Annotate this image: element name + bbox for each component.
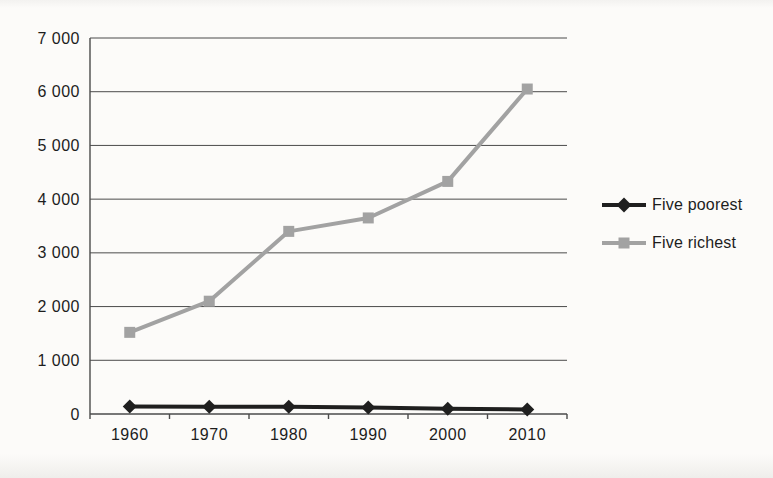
x-tick-label: 1990: [349, 426, 387, 443]
y-tick-label: 7 000: [37, 30, 80, 47]
legend-label-five-richest: Five richest: [652, 235, 736, 251]
x-tick-label: 2010: [508, 426, 546, 443]
x-tick-label: 1980: [270, 426, 308, 443]
series-line-five-poorest: [130, 406, 528, 409]
diamond-marker-icon: [617, 197, 632, 212]
y-tick-label: 5 000: [37, 137, 80, 154]
y-tick-label: 1 000: [37, 352, 80, 369]
y-tick-label: 3 000: [37, 244, 80, 261]
data-point-diamond: [123, 399, 137, 413]
chart-legend: Five poorest Five richest: [601, 194, 742, 253]
data-point-square: [124, 327, 135, 338]
data-point-diamond: [361, 401, 375, 415]
series-line-five-richest: [130, 89, 528, 332]
scanned-chart-page: 01 0002 0003 0004 0005 0006 0007 0001960…: [0, 0, 773, 478]
x-tick-label: 1960: [111, 426, 149, 443]
data-point-square: [283, 226, 294, 237]
y-tick-label: 4 000: [37, 191, 80, 208]
square-marker-icon: [619, 237, 630, 248]
y-tick-label: 0: [71, 406, 80, 423]
five-poorest-legend-marker: [601, 197, 647, 213]
data-point-square: [522, 84, 533, 95]
legend-item-five-poorest: Five poorest: [601, 194, 742, 215]
data-point-square: [204, 296, 215, 307]
legend-item-five-richest: Five richest: [601, 232, 742, 253]
y-tick-label: 6 000: [37, 83, 80, 100]
y-tick-label: 2 000: [37, 298, 80, 315]
x-tick-label: 1970: [190, 426, 228, 443]
x-tick-label: 2000: [429, 426, 467, 443]
data-point-diamond: [202, 400, 216, 414]
legend-label-five-poorest: Five poorest: [652, 197, 742, 213]
data-point-diamond: [282, 400, 296, 414]
data-point-square: [363, 212, 374, 223]
data-point-square: [442, 176, 453, 187]
five-richest-legend-marker: [601, 235, 647, 251]
